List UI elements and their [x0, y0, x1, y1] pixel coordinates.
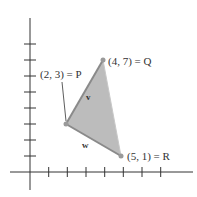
label-v: v — [86, 92, 91, 102]
label-w: w — [82, 140, 89, 150]
point-r — [119, 154, 124, 159]
label-p: (2, 3) = P — [40, 68, 82, 81]
p-label-leader — [62, 82, 66, 121]
label-q: (4, 7) = Q — [108, 55, 152, 68]
point-p — [64, 122, 69, 127]
label-r: (5, 1) = R — [127, 150, 171, 163]
vector-diagram: (2, 3) = P (4, 7) = Q (5, 1) = R v w — [0, 0, 197, 197]
point-q — [101, 58, 106, 63]
